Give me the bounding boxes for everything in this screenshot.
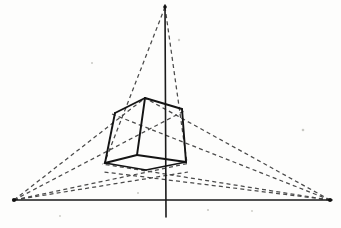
perspective-figure (0, 0, 341, 228)
figure-canvas (0, 0, 341, 228)
left-vanishing-point (12, 198, 16, 202)
paper-speck (137, 192, 139, 194)
paper-speck (59, 215, 61, 217)
vertical-axis (165, 5, 166, 217)
right-vanishing-point (328, 198, 332, 202)
paper-speck (251, 210, 253, 212)
paper-speck (91, 62, 93, 64)
paper-speck (302, 129, 305, 132)
paper-speck (178, 39, 180, 41)
paper-speck (207, 209, 209, 211)
top-vanishing-point (163, 5, 167, 9)
